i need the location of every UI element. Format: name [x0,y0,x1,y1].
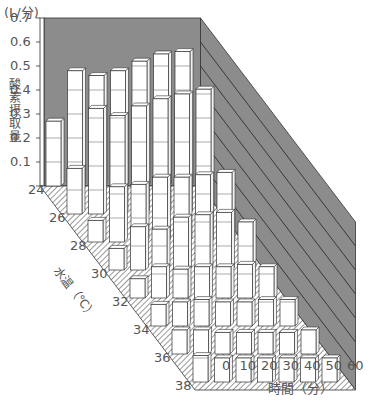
time-tick-label: 50 [326,358,343,373]
bar [46,118,64,186]
bar [215,329,233,354]
y-tick-label: 0.7 [10,10,31,25]
time-tick-label: 20 [261,358,278,373]
bar [173,266,191,298]
y-axis-label: 酸素摂取量 [5,78,22,143]
bar [280,329,298,354]
bar [173,299,191,326]
bar [88,217,106,242]
bar [193,353,211,382]
bar [152,264,170,298]
x-axis-label: 時間（分） [268,378,333,397]
bar [237,329,255,354]
bar [301,327,319,354]
y-tick-label: 0.5 [10,58,31,73]
bar [259,264,277,298]
bar [258,329,276,354]
temp-tick-label: 34 [133,322,150,337]
time-tick-label: 60 [347,358,364,373]
bar [67,165,85,214]
bar [110,184,128,242]
bar [216,299,234,326]
bar [174,214,192,270]
temp-tick-label: 36 [154,350,171,365]
time-tick-label: 0 [222,358,230,373]
temp-tick-label: 28 [70,238,87,253]
bar [280,297,298,326]
y-tick-label: 0.1 [10,154,31,169]
temp-tick-label: 30 [91,266,108,281]
bar [130,276,148,298]
bar [195,212,213,270]
bar [172,327,190,354]
bar [259,297,277,326]
temp-tick-label: 26 [49,210,66,225]
bar [194,327,212,354]
bar [217,209,235,270]
bar [151,301,169,326]
bar3d-chart [0,0,376,400]
bar [89,105,107,214]
bar [237,299,255,326]
temp-tick-label: 24 [28,182,45,197]
temp-tick-label: 38 [175,378,192,393]
bar [238,261,256,298]
time-tick-label: 30 [283,358,300,373]
bar [109,245,127,270]
bar [131,224,149,270]
time-tick-label: 10 [240,358,257,373]
time-tick-label: 40 [304,358,321,373]
bar [216,264,234,298]
temp-tick-label: 32 [112,294,129,309]
bar [195,264,213,298]
bar [194,297,212,326]
bar [152,226,170,270]
y-tick-label: 0.6 [10,34,31,49]
